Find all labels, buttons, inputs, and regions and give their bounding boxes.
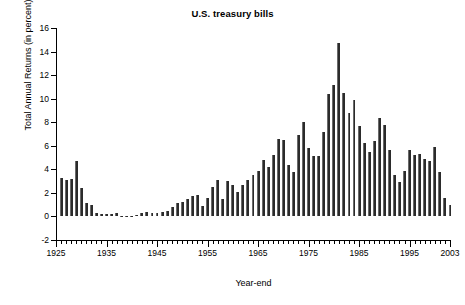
- bar: [332, 85, 335, 217]
- x-tick-major: [107, 240, 108, 247]
- bar: [393, 175, 396, 216]
- x-tick-label: 1985: [350, 249, 369, 258]
- x-tick-minor: [399, 240, 400, 244]
- bar: [176, 203, 179, 216]
- x-tick-minor: [142, 240, 143, 244]
- x-tick-minor: [405, 240, 406, 244]
- x-tick-label: 1925: [47, 249, 66, 258]
- bar: [388, 150, 391, 216]
- x-tick-minor: [218, 240, 219, 244]
- x-tick-minor: [354, 240, 355, 244]
- bar: [201, 206, 204, 217]
- bar: [105, 214, 108, 216]
- bar: [135, 215, 138, 216]
- bar: [257, 171, 260, 217]
- bar: [428, 161, 431, 216]
- x-tick-minor: [61, 240, 62, 244]
- bar: [156, 213, 159, 217]
- x-tick-minor: [273, 240, 274, 244]
- x-tick-minor: [379, 240, 380, 244]
- x-tick-minor: [364, 240, 365, 244]
- y-tick-label: -2: [41, 236, 49, 244]
- bar: [312, 156, 315, 216]
- bar: [262, 160, 265, 217]
- x-tick-minor: [66, 240, 67, 244]
- x-tick-minor: [369, 240, 370, 244]
- bar: [398, 182, 401, 216]
- bar: [115, 213, 118, 217]
- bar: [277, 139, 280, 217]
- x-tick-major: [208, 240, 209, 247]
- x-tick-minor: [233, 240, 234, 244]
- bar: [231, 185, 234, 217]
- x-tick-minor: [91, 240, 92, 244]
- bar: [307, 148, 310, 216]
- y-tick: [51, 52, 56, 53]
- x-tick-minor: [384, 240, 385, 244]
- bar: [211, 187, 214, 216]
- bar: [378, 118, 381, 217]
- x-tick-minor: [172, 240, 173, 244]
- x-tick-minor: [81, 240, 82, 244]
- bar: [302, 122, 305, 216]
- x-tick-label: 1965: [249, 249, 268, 258]
- bar: [75, 161, 78, 216]
- bar: [70, 179, 73, 217]
- bar: [221, 199, 224, 217]
- x-tick-minor: [187, 240, 188, 244]
- x-tick-minor: [445, 240, 446, 244]
- bar: [186, 199, 189, 217]
- x-tick-minor: [339, 240, 340, 244]
- x-tick-minor: [314, 240, 315, 244]
- x-tick-minor: [283, 240, 284, 244]
- plot-area: -20246810121416 192519351945195519651975…: [56, 28, 450, 240]
- x-tick-major: [56, 240, 57, 247]
- bar: [449, 205, 452, 217]
- x-tick-minor: [223, 240, 224, 244]
- x-tick-minor: [268, 240, 269, 244]
- x-tick-minor: [182, 240, 183, 244]
- bar: [272, 155, 275, 216]
- bar: [246, 180, 249, 217]
- x-tick-minor: [435, 240, 436, 244]
- y-tick-label: 6: [44, 142, 49, 150]
- x-tick-minor: [213, 240, 214, 244]
- y-tick-label: 14: [40, 48, 49, 56]
- bar: [322, 132, 325, 217]
- x-tick-minor: [430, 240, 431, 244]
- bar: [90, 205, 93, 217]
- x-tick-minor: [415, 240, 416, 244]
- x-tick-minor: [86, 240, 87, 244]
- y-tick: [51, 146, 56, 147]
- x-tick-minor: [248, 240, 249, 244]
- x-tick-minor: [132, 240, 133, 244]
- x-tick-minor: [298, 240, 299, 244]
- bar: [368, 152, 371, 217]
- bar: [267, 167, 270, 216]
- bar: [403, 171, 406, 217]
- bar: [433, 147, 436, 216]
- y-tick-label: 10: [40, 95, 49, 103]
- x-tick-minor: [440, 240, 441, 244]
- x-tick-minor: [304, 240, 305, 244]
- bar: [252, 175, 255, 216]
- bar: [282, 140, 285, 217]
- x-tick-minor: [420, 240, 421, 244]
- bar: [342, 93, 345, 217]
- x-tick-minor: [152, 240, 153, 244]
- x-tick-label: 1935: [97, 249, 116, 258]
- x-tick-minor: [263, 240, 264, 244]
- bar: [327, 94, 330, 216]
- bar: [226, 181, 229, 216]
- x-tick-minor: [162, 240, 163, 244]
- y-tick-label: 0: [44, 212, 49, 220]
- bar: [348, 113, 351, 217]
- bar: [297, 135, 300, 216]
- bar: [100, 214, 103, 216]
- bar: [353, 100, 356, 217]
- x-tick-minor: [71, 240, 72, 244]
- bar: [196, 195, 199, 216]
- bar: [206, 198, 209, 217]
- x-tick-major: [450, 240, 451, 247]
- x-tick-major: [410, 240, 411, 247]
